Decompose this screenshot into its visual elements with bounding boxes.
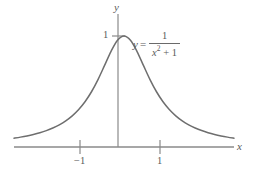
equation-annotation: y = 1 x2 + 1 [133,31,180,58]
denominator-rest: + 1 [163,46,177,57]
x-tick-label-one: 1 [157,155,162,166]
equation-fraction: 1 x2 + 1 [149,31,180,58]
fraction-denominator: x2 + 1 [149,44,180,58]
equation-lhs: y [133,39,138,50]
y-tick-label-one: 1 [103,29,108,40]
function-plot-figure: x y −1 1 1 y = 1 x2 + 1 [0,0,254,181]
equation-equals-sign: = [140,39,146,50]
x-axis-label: x [237,140,242,152]
x-tick-label-negative-one: −1 [74,155,85,166]
curve-path [14,36,234,138]
denominator-exponent: 2 [157,44,161,53]
plot-canvas [0,0,254,181]
fraction-numerator: 1 [158,31,171,43]
y-axis-label: y [114,1,119,13]
